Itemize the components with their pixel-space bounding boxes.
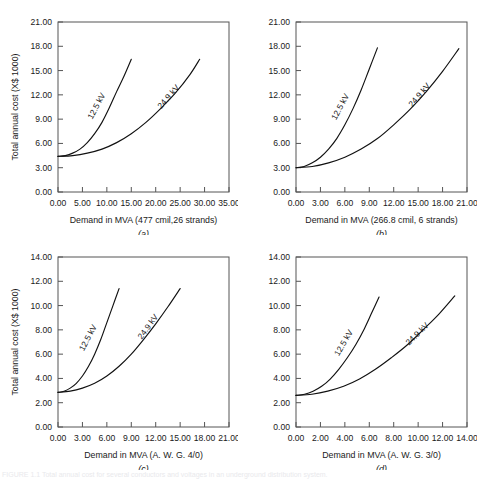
plot-frame [296,257,467,427]
x-axis-title: Demand in MVA (477 cmil,26 strands) [70,215,218,225]
data-curve-24-9kv [296,49,459,168]
x-tick-label: 6.00 [336,198,353,208]
chart-svg-d: 0.002.004.006.008.0010.0012.0014.000.002… [238,235,477,470]
y-tick-label: 9.00 [273,114,290,124]
y-tick-label: 8.00 [35,325,52,335]
y-tick-label: 18.00 [268,41,290,51]
figure-caption: FIGURE 1.1 Total annual cost for several… [0,470,477,484]
x-tick-label: 18.00 [432,198,454,208]
x-tick-label: 21.00 [456,198,477,208]
x-tick-label: 8.00 [385,433,402,443]
series-label-12-5kv: 12.5 kV [329,91,351,121]
y-tick-label: 6.00 [273,138,290,148]
series-label-24-9kv: 24.9 kV [406,81,432,109]
series-label-12-5kv: 12.5 kV [332,328,355,358]
y-tick-label: 6.00 [273,349,290,359]
y-tick-label: 18.00 [30,41,52,51]
y-tick-label: 21.00 [30,17,52,27]
data-curve-24-9kv [296,296,455,396]
y-tick-label: 2.00 [273,398,290,408]
x-tick-label: 12.00 [383,198,405,208]
x-tick-label: 15.00 [169,433,191,443]
y-axis-title: Total annual cost (X$ 1000) [10,288,20,395]
y-tick-label: 8.00 [273,325,290,335]
y-tick-label: 4.00 [273,373,290,383]
x-tick-label: 0.00 [288,433,305,443]
x-tick-label: 25.00 [169,198,191,208]
series-label-24-9kv: 24.9 kV [155,82,181,110]
y-tick-label: 3.00 [273,163,290,173]
x-axis-title: Demand in MVA (A. W. G. 4/0) [84,450,203,460]
x-tick-label: 20.00 [145,198,167,208]
y-tick-label: 3.00 [35,163,52,173]
y-tick-label: 12.00 [30,276,52,286]
x-tick-label: 2.00 [312,433,329,443]
y-tick-label: 6.00 [35,349,52,359]
y-tick-label: 12.00 [268,90,290,100]
x-tick-label: 12.00 [145,433,167,443]
series-label-12-5kv: 12.5 kV [85,91,107,121]
x-tick-label: 30.00 [194,198,216,208]
x-tick-label: 0.00 [288,198,305,208]
x-tick-label: 5.00 [74,198,91,208]
y-tick-label: 14.00 [268,252,290,262]
x-tick-label: 15.00 [407,198,429,208]
chart-panel-b: 0.003.006.009.0012.0015.0018.0021.000.00… [238,0,477,235]
y-tick-label: 15.00 [268,66,290,76]
y-tick-label: 12.00 [30,90,52,100]
x-tick-label: 4.00 [336,433,353,443]
y-tick-label: 14.00 [30,252,52,262]
x-tick-label: 15.00 [121,198,143,208]
x-tick-label: 18.00 [194,433,216,443]
data-curve-24-9kv [58,59,200,156]
chart-panel-d: 0.002.004.006.008.0010.0012.0014.000.002… [238,235,477,470]
series-label-12-5kv: 12.5 kV [77,322,99,352]
y-tick-label: 12.00 [268,276,290,286]
x-tick-label: 35.00 [218,198,238,208]
chart-panel-a: 0.003.006.009.0012.0015.0018.0021.000.00… [0,0,238,235]
data-curve-24-9kv [58,289,180,393]
y-tick-label: 2.00 [35,398,52,408]
series-label-24-9kv: 24.9 kV [403,320,431,347]
chart-svg-a: 0.003.006.009.0012.0015.0018.0021.000.00… [0,0,238,235]
x-tick-label: 0.00 [50,433,67,443]
plot-frame [296,22,467,192]
y-tick-label: 0.00 [273,422,290,432]
x-tick-label: 9.00 [123,433,140,443]
x-tick-label: 10.00 [407,433,429,443]
x-tick-label: 3.00 [312,198,329,208]
y-tick-label: 0.00 [35,422,52,432]
x-tick-label: 10.00 [96,198,118,208]
plot-frame [58,22,229,192]
x-tick-label: 14.00 [456,433,477,443]
y-tick-label: 9.00 [35,114,52,124]
x-axis-title: Demand in MVA (266.8 cmil, 6 strands) [305,215,457,225]
x-axis-title: Demand in MVA (A. W. G. 3/0) [322,450,441,460]
y-tick-label: 21.00 [268,17,290,27]
chart-svg-c: 0.002.004.006.008.0010.0012.0014.000.003… [0,235,238,470]
figure-root: 0.003.006.009.0012.0015.0018.0021.000.00… [0,0,477,484]
y-tick-label: 4.00 [35,373,52,383]
y-tick-label: 15.00 [30,66,52,76]
chart-svg-b: 0.003.006.009.0012.0015.0018.0021.000.00… [238,0,477,235]
x-tick-label: 6.00 [98,433,115,443]
series-label-24-9kv: 24.9 kV [135,312,160,341]
x-tick-label: 6.00 [361,433,378,443]
chart-panel-c: 0.002.004.006.008.0010.0012.0014.000.003… [0,235,238,470]
y-tick-label: 10.00 [268,301,290,311]
y-tick-label: 10.00 [30,301,52,311]
y-tick-label: 0.00 [273,187,290,197]
y-axis-title: Total annual cost (X$ 1000) [10,53,20,160]
x-tick-label: 21.00 [218,433,238,443]
x-tick-label: 12.00 [432,433,454,443]
y-tick-label: 6.00 [35,138,52,148]
x-tick-label: 9.00 [361,198,378,208]
x-tick-label: 3.00 [74,433,91,443]
x-tick-label: 0.00 [50,198,67,208]
y-tick-label: 0.00 [35,187,52,197]
